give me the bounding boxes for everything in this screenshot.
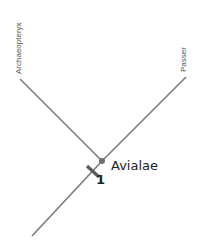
branch-archaeopteryx [20,79,102,161]
node-dot [99,158,105,164]
taxon-label-passer: Passer [179,47,188,72]
clade-label-avialae: Avialae [111,158,158,173]
cladogram: Archaeopteryx Passer Avialae 1 [0,0,199,248]
synapomorphy-number: 1 [96,172,105,187]
taxon-label-archaeopteryx: Archaeopteryx [14,22,23,74]
branch-passer [102,77,186,161]
